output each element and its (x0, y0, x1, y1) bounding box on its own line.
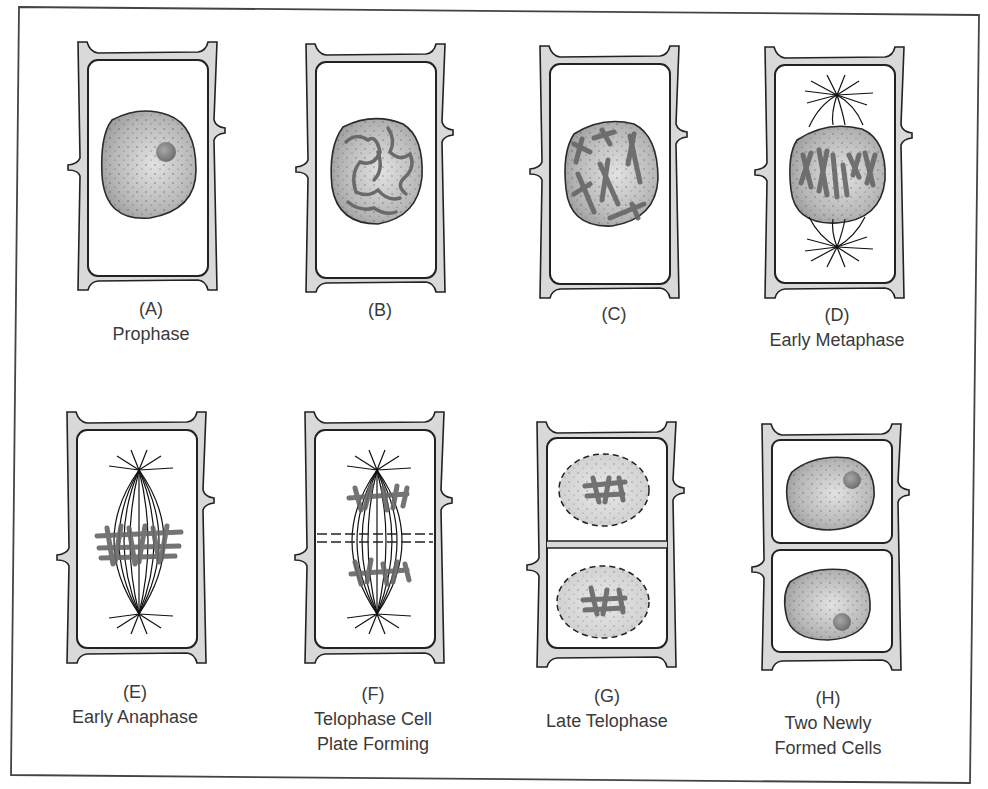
panel-b (296, 44, 453, 292)
mitosis-figure: (A) Prophase (B) (C) (D) Early Metaphase… (0, 0, 988, 789)
nucleus-upper (787, 457, 874, 530)
nucleus (565, 122, 658, 227)
nucleolus (843, 471, 861, 489)
panel-letter: (F) (263, 682, 483, 707)
stage-name-line1: Telophase Cell (263, 707, 483, 732)
panel-letter: (E) (25, 680, 245, 705)
panel-g-late-telophase (527, 422, 684, 667)
cell-wall (295, 412, 452, 663)
label-panel-b: (B) (270, 298, 490, 323)
panel-letter: (B) (270, 298, 490, 323)
nucleus (102, 111, 196, 218)
panel-f-telophase-cell-plate (295, 412, 452, 663)
stage-name: Late Telophase (497, 709, 717, 734)
stage-name-line2: Formed Cells (718, 736, 938, 761)
label-panel-h: (H) Two Newly Formed Cells (718, 686, 938, 761)
stage-name: Early Metaphase (727, 328, 947, 353)
panel-letter: (G) (497, 684, 717, 709)
panel-letter: (H) (718, 686, 938, 711)
label-panel-a: (A) Prophase (41, 297, 261, 347)
nucleus-lower (785, 569, 870, 640)
daughter-nucleus-bottom (557, 566, 649, 638)
panel-h-two-new-cells (752, 424, 909, 670)
cell-wall (57, 412, 214, 663)
stage-name-line2: Plate Forming (263, 732, 483, 757)
stage-name: Early Anaphase (25, 705, 245, 730)
panel-c (530, 46, 687, 298)
label-panel-d: (D) Early Metaphase (727, 303, 947, 353)
panel-e-early-anaphase (57, 412, 214, 663)
label-panel-g: (G) Late Telophase (497, 684, 717, 734)
nucleus (331, 119, 422, 224)
panel-a-prophase (68, 42, 225, 290)
label-panel-e: (E) Early Anaphase (25, 680, 245, 730)
nucleolus (156, 142, 176, 162)
panel-d-early-metaphase (755, 47, 912, 298)
stage-name-line1: Two Newly (718, 711, 938, 736)
label-panel-f: (F) Telophase Cell Plate Forming (263, 682, 483, 757)
daughter-nucleus-top (559, 454, 649, 526)
nucleus (790, 126, 885, 223)
panel-letter: (A) (41, 297, 261, 322)
panel-letter: (C) (504, 302, 724, 327)
nucleolus (833, 613, 851, 631)
label-panel-c: (C) (504, 302, 724, 327)
chromosomes-at-equator (97, 526, 181, 564)
new-cell-wall (547, 541, 667, 548)
figure-canvas (0, 0, 988, 789)
stage-name: Prophase (41, 322, 261, 347)
panel-letter: (D) (727, 303, 947, 328)
